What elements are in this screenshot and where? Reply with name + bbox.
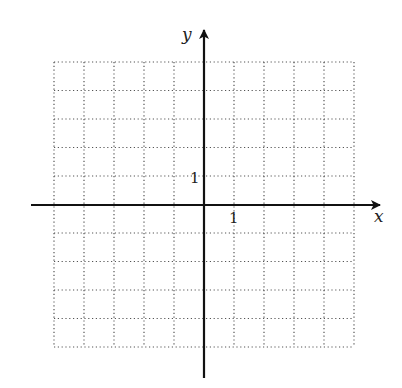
y-axis-label: y (181, 24, 192, 44)
y-tick-label: 1 (190, 169, 200, 187)
coordinate-plane: x y 1 1 (0, 0, 402, 388)
x-tick-label: 1 (229, 209, 239, 227)
x-axis-label: x (374, 206, 384, 226)
